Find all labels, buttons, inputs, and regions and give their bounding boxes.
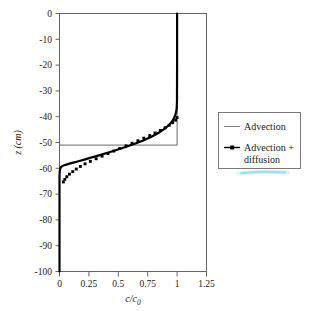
y-tick-label: -50 bbox=[39, 138, 52, 148]
legend-label-diffusion-line2: diffusion bbox=[244, 154, 280, 165]
data-point-marker bbox=[125, 144, 128, 147]
x-tick-label: 1 bbox=[175, 279, 180, 289]
series-advection-diffusion bbox=[60, 14, 178, 272]
data-point-marker bbox=[71, 170, 74, 173]
x-tick-label: 0 bbox=[57, 279, 62, 289]
y-tick-label: 0 bbox=[47, 9, 52, 19]
data-point-marker bbox=[168, 124, 171, 127]
data-point-marker bbox=[148, 134, 151, 137]
figure-container: 0 -10 -20 -30 -40 -50 -60 -70 -80 -90 -1… bbox=[0, 0, 316, 311]
data-point-marker bbox=[84, 162, 87, 165]
x-axis-title: c/c0 bbox=[125, 293, 141, 307]
series-markers bbox=[62, 116, 179, 183]
data-point-marker bbox=[68, 173, 71, 176]
data-point-marker bbox=[171, 121, 174, 124]
y-tick-label: -90 bbox=[39, 241, 52, 251]
series-advection bbox=[60, 14, 178, 146]
legend-label-advection: Advection bbox=[244, 121, 286, 132]
data-point-marker bbox=[164, 126, 167, 129]
x-axis-title-subscript: 0 bbox=[137, 298, 141, 307]
data-point-marker bbox=[63, 178, 66, 181]
y-tick-label: -100 bbox=[35, 267, 53, 277]
data-point-marker bbox=[174, 119, 177, 122]
x-axis-ticks bbox=[60, 272, 207, 277]
y-tick-label: -80 bbox=[39, 215, 52, 225]
data-point-marker bbox=[118, 147, 121, 150]
x-tick-label: 1.25 bbox=[198, 279, 215, 289]
y-tick-label: -60 bbox=[39, 164, 52, 174]
chart-canvas: 0 -10 -20 -30 -40 -50 -60 -70 -80 -90 -1… bbox=[0, 0, 316, 311]
data-point-marker bbox=[112, 150, 115, 153]
y-axis-tick-labels: 0 -10 -20 -30 -40 -50 -60 -70 -80 -90 -1… bbox=[35, 9, 53, 277]
data-point-marker bbox=[131, 142, 134, 145]
y-tick-label: -30 bbox=[39, 86, 52, 96]
chart-legend: Advection Advection + diffusion bbox=[219, 113, 301, 169]
y-tick-label: -10 bbox=[39, 35, 52, 45]
x-tick-label: 0.5 bbox=[112, 279, 124, 289]
data-point-marker bbox=[176, 116, 179, 119]
x-tick-label: 0.75 bbox=[139, 279, 156, 289]
blue-highlight-artifact bbox=[238, 172, 288, 174]
x-axis-tick-labels: 0 0.25 0.5 0.75 1 1.25 bbox=[57, 279, 215, 289]
y-axis-title-text: z (cm) bbox=[12, 129, 24, 155]
data-point-marker bbox=[89, 160, 92, 163]
x-tick-label: 0.25 bbox=[81, 279, 98, 289]
data-point-marker bbox=[95, 157, 98, 160]
legend-square-marker-icon bbox=[230, 146, 234, 150]
data-point-marker bbox=[62, 181, 65, 184]
data-point-marker bbox=[79, 165, 82, 168]
data-point-marker bbox=[107, 152, 110, 155]
y-tick-label: -20 bbox=[39, 60, 52, 70]
legend-label-diffusion-line1: Advection + bbox=[244, 142, 294, 153]
data-point-marker bbox=[75, 168, 78, 171]
data-point-marker bbox=[65, 175, 68, 178]
y-axis-title: z (cm) bbox=[12, 129, 24, 155]
data-point-marker bbox=[101, 155, 104, 158]
y-tick-label: -40 bbox=[39, 112, 52, 122]
data-point-marker bbox=[142, 137, 145, 140]
y-tick-label: -70 bbox=[39, 189, 52, 199]
data-point-marker bbox=[154, 132, 157, 135]
svg-text:c/c0: c/c0 bbox=[125, 293, 141, 307]
data-point-marker bbox=[137, 139, 140, 142]
data-point-marker bbox=[159, 129, 162, 132]
